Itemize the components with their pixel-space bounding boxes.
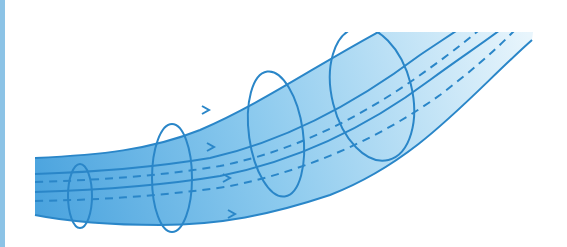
flow-tube-diagram bbox=[0, 0, 567, 247]
flow-arrow-icon bbox=[202, 106, 209, 114]
flow-tube-body bbox=[35, 0, 540, 225]
